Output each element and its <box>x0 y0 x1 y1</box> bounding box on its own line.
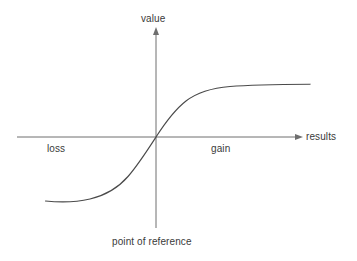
axes-group <box>17 27 303 228</box>
value-function-curve <box>46 84 311 202</box>
gain-region-label: gain <box>211 143 230 155</box>
point-of-reference-label: point of reference <box>112 236 192 248</box>
y-axis-arrowhead <box>153 27 159 35</box>
y-axis-label: value <box>141 13 165 25</box>
value-function-figure: value results loss gain point of referen… <box>0 0 357 261</box>
chart-canvas <box>0 0 357 261</box>
x-axis-arrowhead <box>295 134 303 140</box>
loss-region-label: loss <box>47 143 65 155</box>
x-axis-label: results <box>306 131 336 143</box>
value-curve-group <box>46 84 311 202</box>
